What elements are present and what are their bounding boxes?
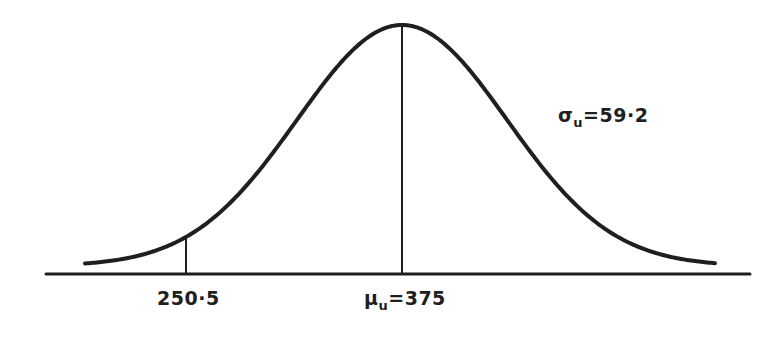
mean-symbol: μ [364, 287, 378, 309]
marker-value: 250·5 [157, 287, 220, 309]
normal-curve [85, 25, 715, 263]
marker-label: 250·5 [157, 287, 220, 309]
mean-subscript: u [378, 298, 388, 313]
mean-value: 375 [405, 287, 446, 309]
sigma-value: 59·2 [600, 104, 649, 126]
sigma-symbol: σ [558, 104, 573, 126]
sigma-label: σu=59·2 [558, 104, 648, 126]
mean-equals: = [388, 287, 404, 309]
mean-label: μu=375 [364, 287, 446, 309]
sigma-subscript: u [573, 115, 583, 130]
sigma-equals: = [583, 104, 599, 126]
